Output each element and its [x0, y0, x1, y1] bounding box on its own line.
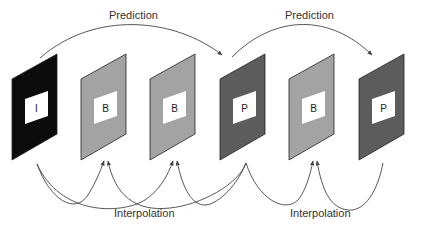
frame-b-3-letter: B — [310, 103, 317, 114]
frame-p-1: P — [220, 54, 265, 160]
frame-b-1: B — [81, 54, 126, 160]
frame-i: I — [12, 54, 57, 160]
frame-b-3: B — [289, 54, 334, 160]
interp-arrow-p1-to-b2 — [177, 161, 246, 205]
frame-p-2-letter: P — [380, 103, 387, 114]
gop-frame-diagram: Prediction Prediction I B B P — [0, 0, 421, 236]
frame-b-1-letter: B — [102, 103, 109, 114]
interpolation-arrows: Interpolation Interpolation — [37, 161, 383, 219]
prediction-label-1: Prediction — [109, 9, 158, 21]
interp-arrow-p2-to-b3 — [317, 161, 383, 210]
interpolation-label-1: Interpolation — [114, 207, 175, 219]
interp-arrow-i-to-b1 — [37, 161, 104, 204]
prediction-label-2: Prediction — [285, 9, 334, 21]
frame-p-1-letter: P — [241, 103, 248, 114]
prediction-arrow-i-to-p — [40, 25, 222, 58]
frame-i-letter: I — [35, 103, 38, 114]
interp-arrow-p1-to-b1 — [108, 161, 246, 209]
interpolation-label-2: Interpolation — [290, 207, 351, 219]
interp-arrow-i-to-b2 — [37, 161, 173, 209]
frame-p-2: P — [359, 54, 404, 160]
frame-b-2: B — [150, 54, 195, 160]
prediction-arrows: Prediction Prediction — [40, 9, 372, 58]
frame-b-2-letter: B — [171, 103, 178, 114]
interp-arrow-p1-to-b3 — [246, 161, 313, 205]
frames: I B B P B P — [12, 54, 404, 160]
prediction-arrow-p-to-p — [232, 24, 372, 57]
